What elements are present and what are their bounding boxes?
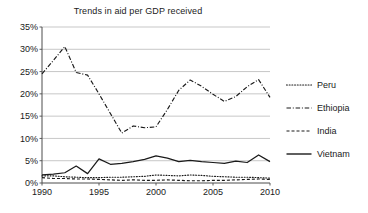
legend-item-peru[interactable]: Peru [286,73,368,96]
axis-lines [42,27,270,183]
y-tick-label: 35% [20,22,38,32]
series-line-india [42,178,270,181]
y-tick-label: 15% [20,111,38,121]
x-tick-label: 2010 [260,187,280,197]
legend-label: India [317,126,337,136]
series-line-peru [42,175,270,178]
x-tick-label: 1995 [89,187,109,197]
legend-item-india[interactable]: India [286,119,368,142]
x-tick-label: 2000 [146,187,166,197]
y-axis-tick-labels: 0%5%10%15%20%25%30%35% [20,22,42,188]
legend-label: Peru [317,80,336,90]
legend-item-vietnam[interactable]: Vietnam [286,142,368,165]
legend-label: Ethiopia [317,103,350,113]
y-tick-label: 20% [20,89,38,99]
legend-swatch-ethiopia-icon [286,103,312,113]
y-tick-label: 30% [20,44,38,54]
y-tick-label: 10% [20,134,38,144]
y-tick-label: 25% [20,67,38,77]
x-tick-label: 2005 [203,187,223,197]
x-axis-tick-labels: 19901995200020052010 [32,183,280,197]
x-tick-label: 1990 [32,187,52,197]
series-line-ethiopia [42,47,270,133]
gridlines [42,27,270,161]
legend-swatch-india-icon [286,126,312,136]
legend-swatch-vietnam-icon [286,149,312,159]
chart-legend: PeruEthiopiaIndiaVietnam [286,73,368,165]
legend-swatch-peru-icon [286,80,312,90]
series-line-vietnam [42,155,270,175]
legend-label: Vietnam [317,149,350,159]
legend-item-ethiopia[interactable]: Ethiopia [286,96,368,119]
chart-container: Trends in aid per GDP received 0%5%10%15… [0,0,368,213]
y-tick-label: 5% [25,156,38,166]
